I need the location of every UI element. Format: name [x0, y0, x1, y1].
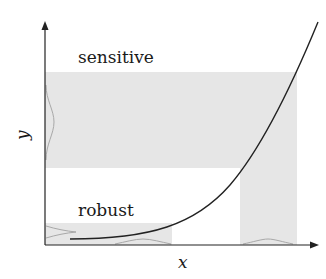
diagram-canvas: sensitive robust x y: [0, 0, 326, 279]
robust-label: robust: [78, 200, 134, 220]
x-axis-label: x: [178, 252, 188, 272]
x-axis-arrow-icon: [310, 242, 319, 249]
sensitive-label: sensitive: [78, 47, 154, 67]
y-axis-arrow-icon: [42, 21, 49, 30]
y-axis-label: y: [12, 130, 32, 141]
sensitive-input-band: [240, 168, 297, 245]
sensitive-output-band: [45, 72, 297, 168]
